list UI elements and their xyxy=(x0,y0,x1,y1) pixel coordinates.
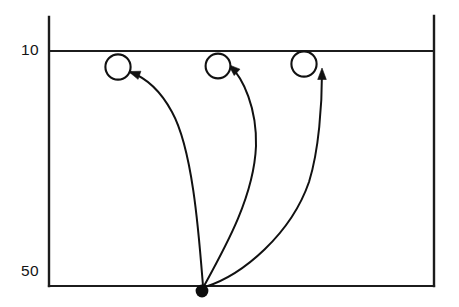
trajectory-path-left xyxy=(130,72,203,286)
trajectory-group xyxy=(129,65,327,287)
axis-frame xyxy=(49,16,434,286)
trajectory-path-middle xyxy=(204,67,256,287)
source-point-dot xyxy=(196,285,209,298)
diagram-vector-layer xyxy=(0,0,459,307)
target-circle-left xyxy=(105,54,130,79)
arrowhead-right xyxy=(318,68,327,80)
target-circle-middle xyxy=(206,54,231,79)
diagram-canvas: 10 50 xyxy=(0,0,459,307)
trajectory-path-right xyxy=(205,72,322,287)
depth-label-50: 50 xyxy=(21,263,39,279)
depth-label-10: 10 xyxy=(21,42,39,58)
target-circle-right xyxy=(291,51,316,76)
